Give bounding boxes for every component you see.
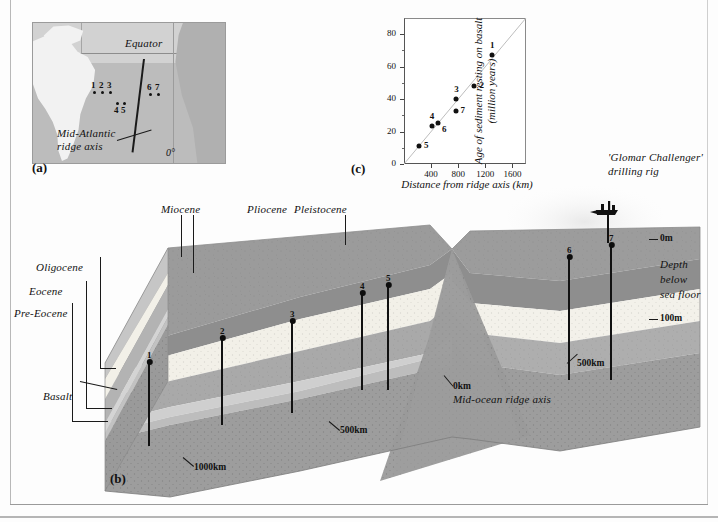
- y-axis-tick-label: 0: [374, 158, 396, 168]
- x-axis-tick: [458, 164, 459, 168]
- map-site-number: 5: [121, 105, 126, 115]
- x-axis-tick: [512, 164, 513, 168]
- label-miocene: Miocene: [161, 203, 200, 215]
- leader-miocene: [193, 215, 194, 273]
- drill-hole-number: 1: [147, 350, 152, 360]
- scatter-point: [416, 144, 421, 149]
- y-axis-tick-label: 60: [374, 61, 396, 71]
- leader-eocene-v: [86, 281, 87, 409]
- drill-hole-line: [361, 293, 363, 390]
- drill-hole-number: 2: [220, 326, 225, 336]
- leader-preeocene-h: [72, 421, 108, 422]
- distance-label-1000km: 1000km: [194, 462, 226, 472]
- label-basalt: Basalt: [43, 390, 72, 402]
- label-oligocene: Oligocene: [36, 261, 83, 273]
- scatter-point: [429, 123, 434, 128]
- map-ridge-label-line2: ridge axis: [57, 140, 116, 153]
- leader-eocene-h: [86, 408, 112, 409]
- y-axis-tick: [400, 67, 404, 68]
- scatter-point-label: 6: [442, 124, 447, 134]
- label-pliocene: Pliocene: [247, 203, 287, 215]
- label-pleistocene: Pleistocene: [294, 203, 347, 215]
- map-site-dot: [101, 91, 104, 94]
- map-site-dot: [157, 93, 160, 96]
- drill-hole-number: 7: [609, 233, 614, 243]
- y-axis-tick-label: 20: [374, 126, 396, 136]
- drill-string-rig: [607, 213, 609, 243]
- y-axis-minor-tick: [402, 83, 404, 84]
- drill-hole-line: [291, 321, 293, 413]
- y-axis-tick: [400, 99, 404, 100]
- distance-label-0km: 0km: [453, 381, 471, 391]
- page-border-bottom-thick: [0, 516, 718, 518]
- map-site-number: 6: [147, 82, 152, 92]
- scatter-point: [453, 109, 458, 114]
- distance-label-500km-right: 500km: [577, 358, 604, 368]
- map-site-number: 3: [107, 80, 112, 90]
- panel-tag-c: (c): [351, 161, 365, 177]
- scatter-point: [435, 121, 440, 126]
- label-pre-eocene: Pre-Eocene: [14, 307, 68, 319]
- scatter-point: [454, 97, 459, 102]
- drill-hole-line: [568, 257, 570, 380]
- map-site-number: 1: [91, 80, 96, 90]
- map-equator-label: Equator: [125, 37, 162, 49]
- block-diagram-panel: Oligocene Eocene Pre-Eocene Basalt Mioce…: [0, 185, 718, 505]
- y-axis-tick-label: 40: [374, 93, 396, 103]
- scatter-plot-panel: 02040608040080012001600 1234567 Age of s…: [404, 18, 526, 164]
- y-axis-minor-tick: [402, 148, 404, 149]
- map-ridge-label-line1: Mid-Atlantic: [57, 127, 116, 140]
- map-graticule-line: [81, 23, 82, 53]
- figure-page: Equator Mid-Atlantic ridge axis 0° 12345…: [0, 0, 718, 522]
- map-prime-meridian-line: [173, 23, 174, 163]
- map-site-number: 7: [155, 82, 160, 92]
- drill-hole-line: [221, 338, 223, 425]
- scatter-point-label: 4: [430, 111, 435, 121]
- depth-axis-title-line3: sea floor: [660, 287, 701, 302]
- depth-axis-title-line2: below: [660, 272, 701, 287]
- scatter-point-label: 5: [424, 140, 429, 150]
- y-axis-tick: [400, 164, 404, 165]
- leader-preeocene-v: [72, 303, 73, 422]
- drill-hole-number: 3: [290, 309, 295, 319]
- map-meridian-label: 0°: [166, 147, 175, 158]
- drill-hole-line: [387, 285, 389, 390]
- depth-axis-title-line1: Depth: [660, 257, 701, 272]
- map-site-dot: [149, 93, 152, 96]
- y-axis-title-line2: (million years): [485, 16, 498, 166]
- label-eocene: Eocene: [29, 285, 63, 297]
- map-site-dot: [109, 91, 112, 94]
- leader-pliocene: [181, 215, 182, 257]
- y-axis-minor-tick: [402, 115, 404, 116]
- trendline: [404, 18, 526, 164]
- leader-oligocene-v: [100, 257, 101, 369]
- drill-hole-number: 4: [360, 281, 365, 291]
- panel-tag-b: (b): [110, 471, 126, 487]
- locality-map-panel: Equator Mid-Atlantic ridge axis 0° 12345…: [32, 22, 226, 164]
- leader-pleistocene: [345, 215, 346, 245]
- drill-hole-number: 5: [386, 273, 391, 283]
- scatter-point-label: 3: [454, 84, 459, 94]
- depth-tick-0m: [649, 239, 658, 240]
- depth-tick-100m: [649, 319, 658, 320]
- depth-axis-title: Depth below sea floor: [660, 257, 701, 302]
- y-axis-title: Age of sediment resting on basalt (milli…: [472, 16, 498, 166]
- drill-hole-line: [148, 362, 150, 446]
- drill-hole-line: [610, 245, 612, 380]
- panel-tag-a: (a): [32, 160, 47, 176]
- map-site-number: 4: [114, 105, 119, 115]
- map-ridge-label: Mid-Atlantic ridge axis: [57, 127, 116, 153]
- map-site-number: 2: [99, 80, 104, 90]
- leader-oligocene-h: [100, 368, 116, 369]
- drill-hole-number: 6: [567, 245, 572, 255]
- map-site-dot: [93, 91, 96, 94]
- label-drilling-rig-line1: 'Glomar Challenger': [608, 150, 703, 164]
- scatter-point-label: 7: [461, 105, 466, 115]
- label-mid-ocean-ridge-axis: Mid-ocean ridge axis: [453, 393, 551, 405]
- y-axis-tick: [400, 34, 404, 35]
- distance-label-500km-left: 500km: [340, 425, 367, 435]
- depth-label-0m: 0m: [660, 233, 673, 243]
- depth-label-100m: 100m: [660, 313, 682, 323]
- y-axis-tick: [400, 132, 404, 133]
- x-axis-tick: [431, 164, 432, 168]
